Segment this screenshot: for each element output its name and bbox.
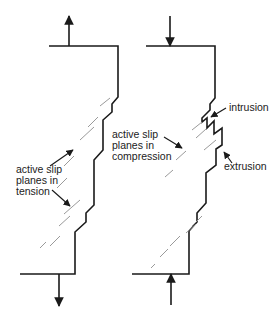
extrusion-label: extrusion [224, 161, 267, 172]
intrusion-pointer-icon [211, 108, 226, 117]
tension-arrows [59, 16, 69, 306]
tension-label: active slip planes in tension [16, 164, 62, 197]
tension-specimen [20, 46, 118, 274]
compression-label: active slip planes in compression [112, 129, 172, 162]
intrusion-label: intrusion [229, 102, 269, 113]
compression-label-line3: compression [112, 151, 172, 162]
tension-label-line3: tension [16, 186, 62, 197]
tension-specimen-outline [20, 46, 118, 274]
